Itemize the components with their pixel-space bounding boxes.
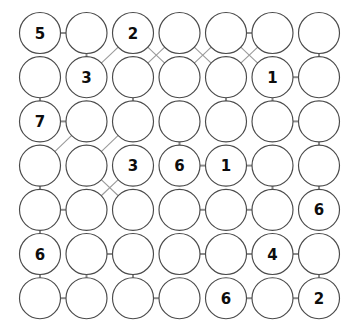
puzzle-board: 5231736166462 xyxy=(0,0,354,329)
node-value-label: 3 xyxy=(81,69,91,87)
puzzle-node[interactable] xyxy=(20,189,61,230)
puzzle-node[interactable] xyxy=(299,101,340,142)
puzzle-node[interactable] xyxy=(159,101,200,142)
node-value-label: 7 xyxy=(35,113,45,131)
puzzle-node[interactable] xyxy=(299,234,340,275)
node-value-label: 5 xyxy=(35,25,45,43)
puzzle-node[interactable] xyxy=(159,278,200,319)
puzzle-node[interactable] xyxy=(66,234,107,275)
puzzle-node[interactable] xyxy=(159,189,200,230)
puzzle-node[interactable] xyxy=(20,145,61,186)
puzzle-node[interactable] xyxy=(66,145,107,186)
puzzle-node[interactable] xyxy=(113,234,154,275)
puzzle-node[interactable] xyxy=(252,278,293,319)
puzzle-node[interactable] xyxy=(206,189,247,230)
puzzle-node[interactable] xyxy=(20,57,61,98)
node-value-label: 4 xyxy=(267,246,277,264)
puzzle-node[interactable] xyxy=(113,57,154,98)
edge-diagonal[interactable] xyxy=(55,135,73,152)
puzzle-node[interactable] xyxy=(299,145,340,186)
puzzle-node[interactable] xyxy=(206,234,247,275)
puzzle-node[interactable] xyxy=(66,101,107,142)
puzzle-node[interactable] xyxy=(252,189,293,230)
puzzle-node[interactable] xyxy=(159,13,200,54)
puzzle-node[interactable] xyxy=(206,57,247,98)
puzzle-node[interactable] xyxy=(113,189,154,230)
puzzle-node[interactable] xyxy=(66,13,107,54)
puzzle-canvas: 5231736166462 xyxy=(0,0,354,329)
puzzle-node[interactable] xyxy=(252,101,293,142)
puzzle-node[interactable] xyxy=(66,278,107,319)
node-layer: 5231736166462 xyxy=(20,13,340,319)
puzzle-node[interactable] xyxy=(299,13,340,54)
puzzle-node[interactable] xyxy=(20,278,61,319)
puzzle-node[interactable] xyxy=(299,57,340,98)
puzzle-node[interactable] xyxy=(159,234,200,275)
puzzle-node[interactable] xyxy=(113,101,154,142)
edge-diagonal[interactable] xyxy=(101,135,119,152)
puzzle-node[interactable] xyxy=(252,145,293,186)
node-value-label: 1 xyxy=(221,157,231,175)
puzzle-node[interactable] xyxy=(159,57,200,98)
node-value-label: 1 xyxy=(267,69,277,87)
puzzle-node[interactable] xyxy=(66,189,107,230)
puzzle-node[interactable] xyxy=(252,13,293,54)
node-value-label: 3 xyxy=(128,157,138,175)
node-value-label: 2 xyxy=(314,290,324,308)
puzzle-node[interactable] xyxy=(113,278,154,319)
node-value-label: 6 xyxy=(174,157,184,175)
puzzle-node[interactable] xyxy=(206,13,247,54)
node-value-label: 6 xyxy=(221,290,231,308)
node-value-label: 6 xyxy=(35,246,45,264)
edge-diagonal[interactable] xyxy=(101,47,119,64)
node-value-label: 2 xyxy=(128,25,138,43)
node-value-label: 6 xyxy=(314,201,324,219)
puzzle-node[interactable] xyxy=(206,101,247,142)
